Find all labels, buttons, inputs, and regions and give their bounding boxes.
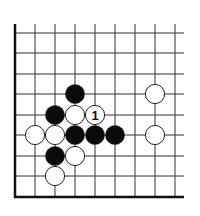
black-stone — [65, 125, 84, 144]
white-stone — [45, 166, 64, 185]
move-number-label: 1 — [91, 108, 98, 123]
white-stone — [65, 146, 84, 165]
white-stone — [65, 105, 84, 124]
black-stone — [45, 105, 64, 124]
black-stone — [105, 125, 124, 144]
black-stone — [45, 146, 64, 165]
white-stone — [145, 125, 164, 144]
white-stone — [45, 125, 64, 144]
white-stone — [145, 84, 164, 103]
white-stone: 1 — [85, 105, 104, 124]
black-stone — [85, 125, 104, 144]
go-board-diagram: 1 — [0, 0, 200, 216]
black-stone — [65, 84, 84, 103]
white-stone — [25, 125, 44, 144]
